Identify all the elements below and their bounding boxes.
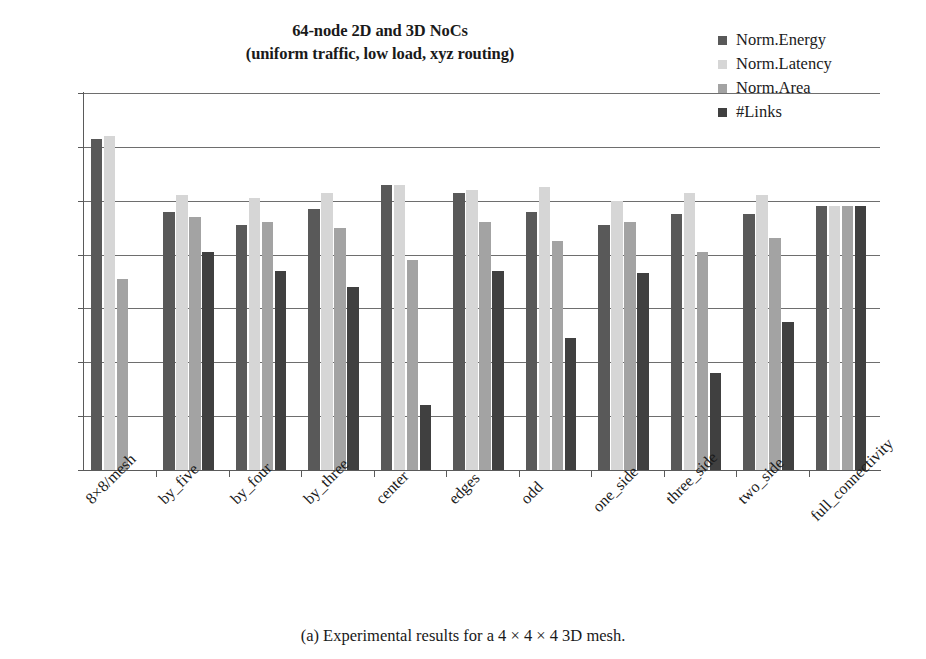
x-axis-labels: 8×8/meshby_fiveby_fourby_threecenteredge… — [0, 0, 926, 659]
x-tick-mark — [229, 471, 230, 477]
figure-caption: (a) Experimental results for a 4 × 4 × 4… — [0, 626, 926, 646]
x-tick-label: one_side — [589, 463, 642, 516]
x-tick-mark — [519, 471, 520, 477]
y-tick-mark — [78, 470, 83, 471]
x-tick-label: 8×8/mesh — [82, 450, 139, 507]
x-tick-label: three_side — [662, 449, 721, 508]
x-tick-label: by_three — [300, 455, 352, 507]
x-tick-mark — [591, 471, 592, 477]
x-tick-label: full_connectivity — [807, 435, 897, 525]
x-tick-mark — [156, 471, 157, 477]
y-tick-mark — [78, 93, 83, 94]
y-tick-mark — [78, 362, 83, 363]
y-tick-mark — [78, 201, 83, 202]
y-tick-mark — [78, 147, 83, 148]
figure-container: 64-node 2D and 3D NoCs (uniform traffic,… — [0, 0, 926, 659]
x-tick-label: edges — [445, 469, 483, 507]
x-tick-mark — [736, 471, 737, 477]
y-tick-mark — [78, 308, 83, 309]
x-tick-mark — [446, 471, 447, 477]
x-tick-mark — [809, 471, 810, 477]
y-tick-mark — [78, 416, 83, 417]
y-tick-mark — [78, 255, 83, 256]
x-tick-label: by_four — [227, 459, 276, 508]
x-tick-label: by_five — [155, 460, 202, 507]
x-tick-mark — [664, 471, 665, 477]
x-tick-label: center — [372, 467, 412, 507]
x-tick-label: odd — [517, 478, 547, 508]
x-tick-label: two_side — [734, 454, 788, 508]
x-tick-mark — [301, 471, 302, 477]
x-tick-mark — [374, 471, 375, 477]
